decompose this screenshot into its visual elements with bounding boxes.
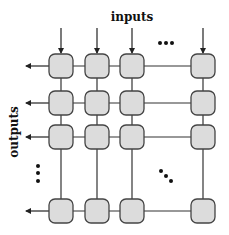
node xyxy=(85,125,109,149)
node xyxy=(85,54,109,78)
diagonal-ellipsis-icon xyxy=(159,169,173,183)
node xyxy=(85,91,109,115)
node xyxy=(120,199,144,223)
node xyxy=(191,91,215,115)
node xyxy=(120,125,144,149)
node xyxy=(120,54,144,78)
node xyxy=(49,91,73,115)
node xyxy=(120,91,144,115)
output-arrows xyxy=(26,66,49,211)
node xyxy=(191,199,215,223)
node xyxy=(191,125,215,149)
input-arrows xyxy=(61,28,203,53)
node xyxy=(49,125,73,149)
vertical-ellipsis-icon xyxy=(36,164,40,183)
inputs-label: inputs xyxy=(111,10,154,24)
node xyxy=(49,54,73,78)
horizontal-ellipsis-icon xyxy=(158,41,174,45)
node xyxy=(49,199,73,223)
systolic-array-diagram: inputs outputs xyxy=(0,0,229,235)
node xyxy=(85,199,109,223)
node xyxy=(191,54,215,78)
outputs-label: outputs xyxy=(7,106,21,158)
